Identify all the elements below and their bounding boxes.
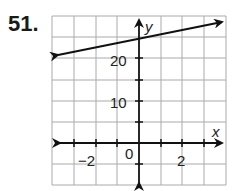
data-line — [58, 22, 222, 55]
y-axis-label: y — [144, 18, 154, 35]
tick-label-neg2: −2 — [78, 152, 95, 169]
tick-label-2: 2 — [177, 152, 185, 169]
x-axis-label: x — [211, 123, 220, 140]
coordinate-graph: y x 20 10 0 −2 2 — [0, 0, 233, 191]
tick-label-10: 10 — [110, 94, 127, 111]
tick-label-20: 20 — [110, 52, 127, 69]
origin-label: 0 — [125, 145, 133, 162]
